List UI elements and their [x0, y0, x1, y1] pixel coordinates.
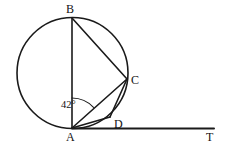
geometry-figure: B C D A T 42° [0, 0, 228, 150]
point-label-b: B [66, 3, 74, 15]
point-label-t: T [206, 131, 213, 143]
segment-cd [110, 79, 127, 117]
point-label-a: A [66, 131, 75, 143]
point-label-d: D [114, 118, 123, 130]
segment-bc [72, 18, 127, 79]
angle-label-bac: 42° [61, 100, 76, 111]
point-label-c: C [131, 74, 139, 86]
